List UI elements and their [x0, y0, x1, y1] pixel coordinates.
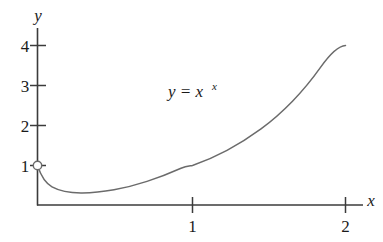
plot-area: y x 4 3 2 1 1 2 y = x x — [0, 0, 383, 242]
x-tick-label-2: 2 — [341, 217, 350, 236]
y-tick-label-1: 1 — [21, 157, 30, 176]
curve-annotation-base: y = x — [166, 82, 204, 101]
curve-y-equals-x-power-x — [38, 46, 346, 193]
x-axis-label: x — [366, 191, 375, 210]
y-tick-label-3: 3 — [21, 77, 30, 96]
y-axis-label: y — [32, 6, 42, 25]
curve-annotation-exponent: x — [211, 80, 217, 92]
y-tick-label-4: 4 — [21, 37, 30, 56]
y-tick-label-2: 2 — [21, 117, 30, 136]
open-circle-marker — [33, 161, 41, 169]
x-tick-label-1: 1 — [188, 217, 197, 236]
figure-container: y x 4 3 2 1 1 2 y = x x — [0, 0, 383, 242]
